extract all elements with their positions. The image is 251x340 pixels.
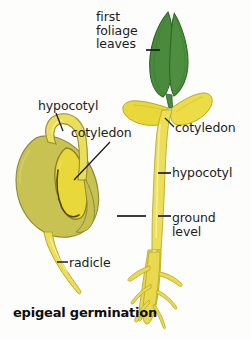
label-ground-level: ground level bbox=[172, 211, 216, 238]
seedling-hypocotyl-stem bbox=[152, 110, 172, 250]
foliage-leaf-right bbox=[170, 13, 188, 96]
label-hypocotyl-right: hypocotyl bbox=[172, 166, 232, 180]
label-hypocotyl-left: hypocotyl bbox=[38, 99, 98, 113]
leaf-petiole bbox=[166, 94, 173, 108]
label-first-foliage-leaves: first foliage leaves bbox=[96, 10, 138, 51]
label-radicle: radicle bbox=[69, 256, 111, 270]
lateral-root-2 bbox=[159, 272, 182, 286]
label-cotyledon-left: cotyledon bbox=[71, 126, 132, 140]
lateral-root-4 bbox=[157, 290, 177, 309]
epigeal-germination-diagram: first foliage leaves hypocotyl cotyledon… bbox=[0, 0, 251, 340]
figure-caption: epigeal germination bbox=[13, 305, 157, 320]
label-cotyledon-right: cotyledon bbox=[175, 121, 236, 135]
